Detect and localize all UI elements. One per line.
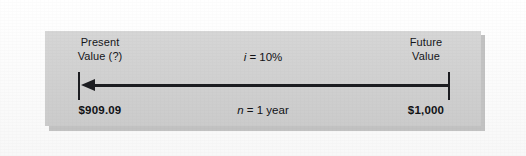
period-label: n = 1 year — [163, 103, 363, 117]
future-value-heading: Future Value — [383, 36, 469, 63]
future-value-heading-line1: Future — [410, 36, 442, 48]
period-equals: = — [244, 104, 257, 116]
present-value-amount: $909.09 — [53, 103, 147, 117]
timeline-figure-panel: Present Value (?) Future Value i = 10% n… — [45, 31, 481, 126]
present-value-heading: Present Value (?) — [57, 36, 143, 63]
future-value-heading-line2: Value — [412, 50, 440, 62]
present-value-heading-line2: Value (?) — [78, 50, 123, 62]
figure-canvas: Present Value (?) Future Value i = 10% n… — [0, 0, 526, 156]
left-arrowhead-icon — [81, 79, 95, 91]
future-value-tick-icon — [448, 72, 450, 100]
future-value-amount: $1,000 — [379, 103, 473, 117]
present-value-heading-line1: Present — [81, 36, 120, 48]
period-value: 1 year — [257, 104, 289, 116]
interest-rate-equals: = — [246, 51, 259, 63]
present-value-tick-icon — [78, 72, 80, 100]
interest-rate-value: 10% — [259, 51, 282, 63]
timeline-axis-line — [90, 84, 450, 87]
interest-rate-label: i = 10% — [163, 50, 363, 64]
